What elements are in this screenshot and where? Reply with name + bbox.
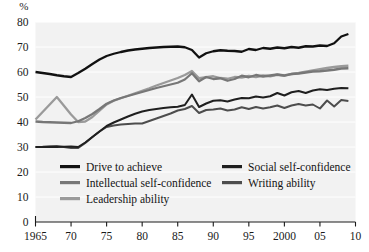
x-axis-tick-marks <box>36 222 356 227</box>
y-tick-label: 60 <box>17 66 29 78</box>
x-tick-label: 75 <box>101 230 113 242</box>
legend-swatch <box>222 181 242 184</box>
x-tick-label: 95 <box>243 230 255 242</box>
y-tick-label: 50 <box>17 91 29 103</box>
y-tick-label: 70 <box>17 41 29 53</box>
legend-label: Drive to achieve <box>86 161 162 173</box>
y-tick-label: 10 <box>17 191 29 203</box>
chart-canvas: 01020304050607080 1965707580859095200005… <box>0 0 369 252</box>
y-tick-label: 0 <box>23 216 29 228</box>
x-tick-label: 70 <box>65 230 77 242</box>
y-axis-unit-label: % <box>19 0 28 12</box>
x-tick-label: 10 <box>350 230 362 242</box>
legend-swatch <box>60 181 80 184</box>
line-chart: 01020304050607080 1965707580859095200005… <box>0 0 369 252</box>
x-tick-label: 1965 <box>24 230 47 242</box>
x-tick-label: 85 <box>172 230 184 242</box>
y-tick-label: 80 <box>17 16 29 28</box>
x-tick-label: 90 <box>208 230 220 242</box>
legend-swatch <box>60 197 80 200</box>
y-tick-label: 40 <box>17 116 29 128</box>
x-tick-label: 05 <box>314 230 326 242</box>
legend-label: Writing ability <box>248 177 316 190</box>
y-axis-tick-labels: 01020304050607080 <box>17 16 29 228</box>
x-tick-label: 2000 <box>273 230 296 242</box>
x-tick-label: 80 <box>136 230 148 242</box>
x-axis-tick-labels: 196570758085909520000510 <box>24 230 362 242</box>
legend-swatch <box>222 165 242 168</box>
legend-label: Intellectual self-confidence <box>86 177 211 189</box>
legend-label: Leadership ability <box>86 193 170 206</box>
y-tick-label: 30 <box>17 141 29 153</box>
y-tick-label: 20 <box>17 166 29 178</box>
legend-label: Social self-confidence <box>248 161 351 173</box>
legend-swatch <box>60 165 80 168</box>
